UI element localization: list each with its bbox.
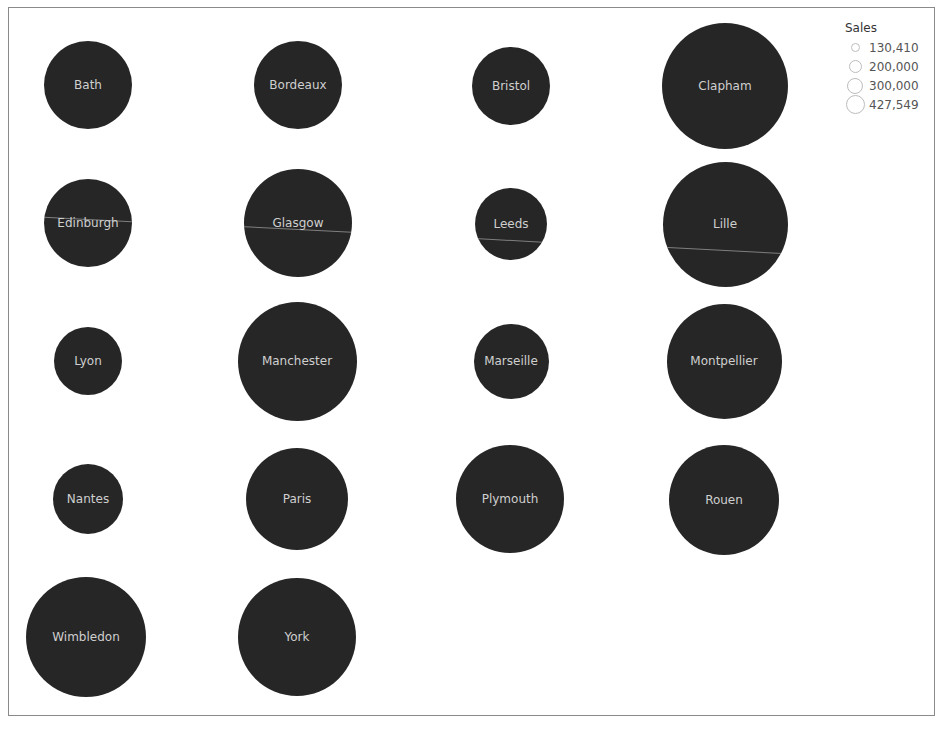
legend-swatch-wrap xyxy=(845,43,865,52)
bubble-bordeaux[interactable]: Bordeaux xyxy=(254,41,342,129)
bubble-label: Montpellier xyxy=(690,354,757,368)
bubble-paris[interactable]: Paris xyxy=(246,448,348,550)
legend-item[interactable]: 200,000 xyxy=(845,57,919,76)
bubble-label: Lille xyxy=(713,217,737,231)
bubble-rouen[interactable]: Rouen xyxy=(669,445,779,555)
bubble-bath[interactable]: Bath xyxy=(44,41,132,129)
bubble-leeds[interactable]: Leeds xyxy=(475,188,547,260)
bubble-label: Lyon xyxy=(74,354,102,368)
bubble-bristol[interactable]: Bristol xyxy=(472,47,550,125)
legend-value: 200,000 xyxy=(869,60,919,74)
legend-swatch-wrap xyxy=(845,60,865,73)
bubble-label: Rouen xyxy=(705,493,743,507)
bubble-label: Marseille xyxy=(484,354,538,368)
bubble-label: Leeds xyxy=(493,217,528,231)
bubble-label: Edinburgh xyxy=(57,216,118,230)
bubble-label: Bristol xyxy=(492,79,530,93)
scan-line-artifact xyxy=(475,238,547,243)
bubble-clapham[interactable]: Clapham xyxy=(662,23,788,149)
legend-item[interactable]: 427,549 xyxy=(845,95,919,114)
legend-items: 130,410200,000300,000427,549 xyxy=(845,38,919,114)
bubble-label: Bath xyxy=(74,78,102,92)
size-legend: Sales 130,410200,000300,000427,549 xyxy=(845,21,919,114)
bubble-label: Wimbledon xyxy=(52,630,120,644)
bubble-plymouth[interactable]: Plymouth xyxy=(456,445,564,553)
bubble-label: Plymouth xyxy=(482,492,539,506)
bubble-lyon[interactable]: Lyon xyxy=(54,327,122,395)
legend-value: 427,549 xyxy=(869,98,919,112)
bubble-lille[interactable]: Lille xyxy=(663,162,788,287)
bubble-label: Clapham xyxy=(698,79,751,93)
bubble-label: Glasgow xyxy=(272,216,323,230)
legend-value: 130,410 xyxy=(869,41,919,55)
scan-line-artifact xyxy=(663,246,788,254)
legend-item[interactable]: 130,410 xyxy=(845,38,919,57)
legend-value: 300,000 xyxy=(869,79,919,93)
legend-swatch-wrap xyxy=(845,95,865,114)
circle-size-icon xyxy=(847,78,863,94)
legend-title: Sales xyxy=(845,21,919,35)
bubble-montpellier[interactable]: Montpellier xyxy=(667,304,782,419)
bubble-manchester[interactable]: Manchester xyxy=(238,302,357,421)
legend-item[interactable]: 300,000 xyxy=(845,76,919,95)
bubble-label: Manchester xyxy=(262,354,332,368)
bubble-york[interactable]: York xyxy=(238,578,356,696)
bubble-label: Nantes xyxy=(67,492,109,506)
bubble-label: Bordeaux xyxy=(269,78,326,92)
bubble-glasgow[interactable]: Glasgow xyxy=(244,169,352,277)
circle-size-icon xyxy=(849,60,862,73)
chart-frame xyxy=(8,7,935,716)
bubble-edinburgh[interactable]: Edinburgh xyxy=(44,179,132,267)
bubble-label: York xyxy=(285,630,310,644)
legend-swatch-wrap xyxy=(845,78,865,94)
bubble-label: Paris xyxy=(283,492,312,506)
bubble-nantes[interactable]: Nantes xyxy=(53,464,123,534)
circle-size-icon xyxy=(846,95,865,114)
bubble-marseille[interactable]: Marseille xyxy=(474,324,549,399)
bubble-wimbledon[interactable]: Wimbledon xyxy=(26,577,146,697)
circle-size-icon xyxy=(851,43,860,52)
